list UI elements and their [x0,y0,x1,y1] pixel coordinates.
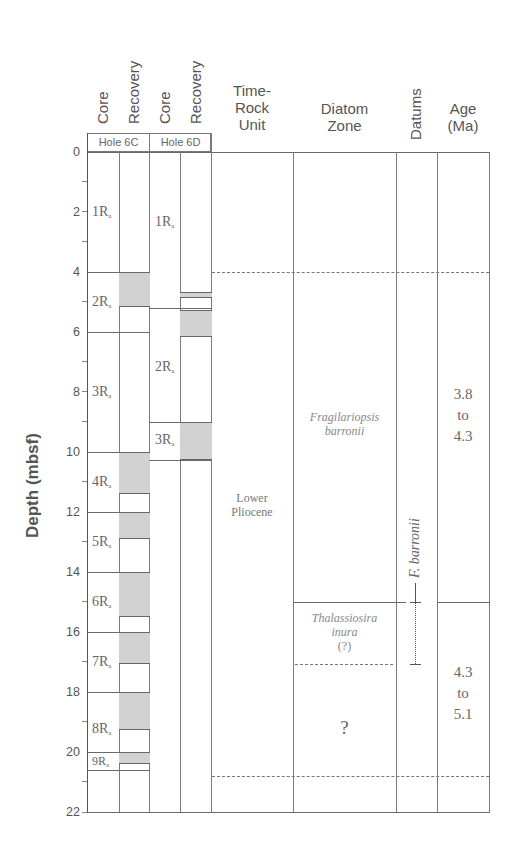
header-diatom-zone: Diatom Zone [293,100,396,134]
core-boundary [87,572,149,573]
core-label-6c-8r: 8Ra [92,722,111,737]
col-border [293,152,294,812]
y-tick: 16 [58,626,80,639]
y-tick: 4 [58,266,80,279]
diatom-zone-fragilariopsis: Fragilariopsis barronii [293,410,396,438]
core-label-6d-3r: 3Ra [155,433,174,448]
core-label-6c-4r: 4Ra [92,475,111,490]
recovery-block [119,452,150,494]
header-core-6c: Core [95,91,110,124]
col-border [180,152,181,812]
recovery-block [119,272,150,307]
y-tick: 22 [58,806,80,819]
col-border [396,152,397,812]
recovery-block [119,572,150,617]
y-tick: 20 [58,746,80,759]
y-tick: 12 [58,506,80,519]
core-label-6c-7r: 7Ra [92,655,111,670]
core-boundary [87,692,149,693]
recovery-block [180,310,212,337]
header-datums: Datums [408,88,423,140]
datum-tick-bottom [410,664,421,665]
core-label-6c-3r: 3Ra [92,385,111,400]
diatom-zone-unknown: ? [293,717,396,739]
recovery-block [119,692,150,730]
core-boundary [87,632,149,633]
core-boundary [149,308,211,309]
bottom-border [87,812,489,813]
datum-label: F. barronii [408,518,422,578]
stratigraphic-column-diagram: Depth (mbsf) 0 2 4 6 8 10 12 14 16 18 20… [0,0,514,847]
core-boundary [87,752,149,753]
recovery-block [180,292,212,298]
core-label-6c-6r: 6Ra [92,595,111,610]
col-border [87,133,88,813]
hole-6c-label: Hole 6C [88,136,149,148]
zone-boundary-dashed [295,664,393,665]
datum-dotted-line [415,603,416,664]
core-label-6d-1r: 1Ra [155,215,174,230]
core-boundary [87,272,149,273]
y-tick: 18 [58,686,80,699]
time-rock-unit-label: Lower Pliocene [211,491,293,519]
top-border [87,152,489,153]
core-boundary [149,422,211,423]
core-boundary [87,452,149,453]
core-label-6c-1r: 1Ra [92,205,111,220]
col-border [211,133,212,813]
y-tick: 10 [58,446,80,459]
col-border [489,152,490,813]
core-label-6c-5r: 5Ra [92,535,111,550]
core-label-6c-2r: 2Ra [92,295,111,310]
header-recovery-6d: Recovery [188,61,203,124]
core-boundary [87,512,149,513]
diatom-zone-thalassiosira: Thalassiosira inura (?) [293,611,396,653]
core-boundary [87,332,149,333]
core-label-6d-2r: 2Ra [155,360,174,375]
y-tick: 0 [58,146,80,159]
dashed-boundary-top [212,272,489,273]
y-tick: 14 [58,566,80,579]
hole-6d-label: Hole 6D [150,136,211,148]
datum-solid-tick [415,583,416,603]
age-upper: 3.8 to 4.3 [437,384,489,447]
age-lower: 4.3 to 5.1 [437,662,489,725]
core-boundary [87,770,149,771]
recovery-block [119,632,150,664]
header-recovery-6c: Recovery [126,61,141,124]
recovery-block [180,422,212,460]
recovery-block [119,512,150,539]
core-label-6c-9r: 9Ra [92,755,109,769]
y-tick: 8 [58,386,80,399]
datum-boundary-line [396,602,406,603]
core-boundary [149,460,211,461]
y-axis-label: Depth (mbsf) [24,433,41,538]
header-time-rock-unit: Time- Rock Unit [211,82,293,133]
recovery-block [119,752,150,764]
dashed-boundary-bottom [212,776,489,777]
y-tick: 6 [58,326,80,339]
zone-boundary-solid [293,602,396,603]
age-boundary-line [437,602,489,603]
y-tick: 2 [58,206,80,219]
header-age: Age (Ma) [437,100,489,134]
header-core-6d: Core [157,91,172,124]
